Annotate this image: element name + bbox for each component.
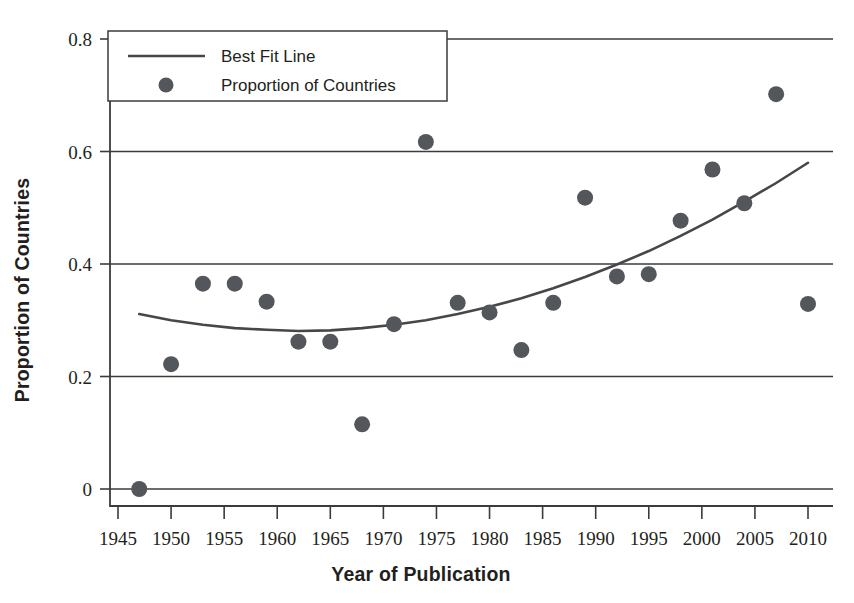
data-point xyxy=(322,334,338,350)
data-point xyxy=(131,481,147,497)
best-fit-line xyxy=(139,163,808,331)
data-point xyxy=(195,276,211,292)
data-point xyxy=(163,356,179,372)
x-tick-label: 1990 xyxy=(577,528,615,549)
x-tick-label: 1985 xyxy=(524,528,562,549)
data-point xyxy=(800,296,816,312)
y-tick-label: 0.8 xyxy=(68,29,92,50)
x-tick-label: 2010 xyxy=(789,528,827,549)
y-tickmarks xyxy=(100,39,110,489)
data-point xyxy=(354,416,370,432)
data-point xyxy=(609,268,625,284)
data-points xyxy=(131,86,816,497)
x-tick-label: 1975 xyxy=(417,528,455,549)
chart-figure: 00.20.40.60.8 19451950195519601965197019… xyxy=(0,0,854,603)
y-tick-labels: 00.20.40.60.8 xyxy=(68,29,92,500)
scatter-chart: 00.20.40.60.8 19451950195519601965197019… xyxy=(0,0,854,603)
x-tick-label: 2000 xyxy=(683,528,721,549)
x-tickmarks xyxy=(118,506,808,519)
y-tick-label: 0.2 xyxy=(68,367,92,388)
x-tick-label: 1970 xyxy=(364,528,402,549)
gridlines xyxy=(110,39,833,489)
x-tick-label: 2005 xyxy=(736,528,774,549)
x-tick-label: 1980 xyxy=(471,528,509,549)
x-tick-labels: 1945195019551960196519701975198019851990… xyxy=(99,528,827,549)
data-point xyxy=(450,295,466,311)
x-tick-label: 1955 xyxy=(205,528,243,549)
y-tick-label: 0 xyxy=(83,479,93,500)
legend-dot-swatch xyxy=(159,78,174,93)
data-point xyxy=(290,334,306,350)
data-point xyxy=(418,134,434,150)
x-tick-label: 1960 xyxy=(258,528,296,549)
x-tick-label: 1945 xyxy=(99,528,137,549)
data-point xyxy=(545,295,561,311)
chart-legend: Best Fit Line Proportion of Countries xyxy=(108,31,447,101)
data-point xyxy=(259,294,275,310)
data-point xyxy=(768,86,784,102)
data-point xyxy=(386,316,402,332)
data-point xyxy=(513,342,529,358)
data-point xyxy=(673,213,689,229)
y-tick-label: 0.6 xyxy=(68,142,92,163)
y-axis-title: Proportion of Countries xyxy=(11,178,33,403)
x-tick-label: 1965 xyxy=(311,528,349,549)
data-point xyxy=(482,304,498,320)
legend-label-best-fit-line: Best Fit Line xyxy=(221,47,316,66)
data-point xyxy=(704,162,720,178)
data-point xyxy=(641,266,657,282)
data-point xyxy=(577,190,593,206)
x-tick-label: 1950 xyxy=(152,528,190,549)
y-tick-label: 0.4 xyxy=(68,254,92,275)
legend-label-proportion-of-countries: Proportion of Countries xyxy=(221,76,396,95)
data-point xyxy=(736,195,752,211)
data-point xyxy=(227,276,243,292)
x-tick-label: 1995 xyxy=(630,528,668,549)
x-axis-title: Year of Publication xyxy=(331,563,510,585)
